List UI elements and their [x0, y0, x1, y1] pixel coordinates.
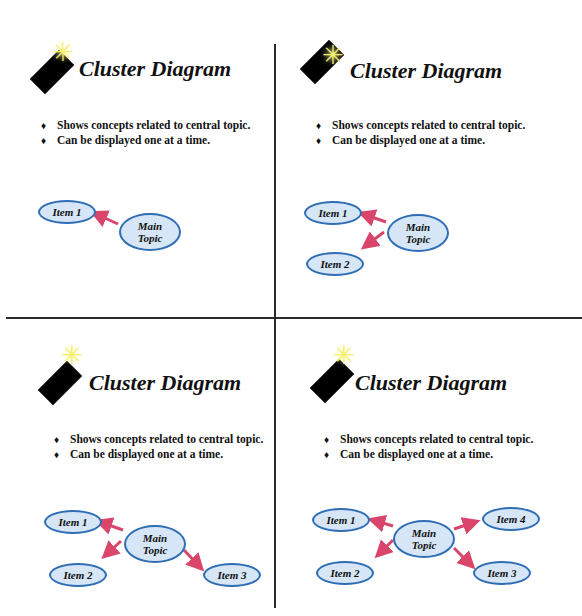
- item-node-1: Item 1: [304, 201, 362, 225]
- main-topic-node: Main Topic: [387, 214, 449, 252]
- item-node-2: Item 2: [316, 561, 374, 585]
- item-node-1: Item 1: [38, 200, 96, 224]
- bullet-item: ♦Can be displayed one at a time.: [324, 447, 533, 462]
- item-node-2: Item 2: [306, 252, 364, 276]
- slide-title: Cluster Diagram: [89, 370, 241, 396]
- bullet-item: ♦Can be displayed one at a time.: [54, 447, 263, 462]
- item-node-1: Item 1: [312, 508, 370, 532]
- bullet-list: ♦Shows concepts related to central topic…: [324, 432, 533, 462]
- bullet-list: ♦Shows concepts related to central topic…: [316, 118, 525, 148]
- bullet-list: ♦Shows concepts related to central topic…: [54, 432, 263, 462]
- main-topic-node: Main Topic: [393, 520, 455, 558]
- item-node-2: Item 2: [49, 563, 107, 587]
- bullet-item: ♦Shows concepts related to central topic…: [54, 432, 263, 447]
- item-node-3: Item 3: [203, 563, 261, 587]
- bullet-item: ♦Shows concepts related to central topic…: [316, 118, 525, 133]
- item-node-1: Item 1: [44, 510, 102, 534]
- bullet-item: ♦Can be displayed one at a time.: [316, 133, 525, 148]
- item-node-3: Item 3: [473, 561, 531, 585]
- slide-title: Cluster Diagram: [355, 370, 507, 396]
- star-burst-icon: ✳: [333, 343, 355, 369]
- main-topic-node: Main Topic: [124, 525, 186, 563]
- main-topic-node: Main Topic: [119, 213, 181, 251]
- star-burst-icon: ✳: [61, 343, 83, 369]
- bullet-item: ♦Shows concepts related to central topic…: [324, 432, 533, 447]
- star-burst-icon: ✳: [322, 43, 344, 69]
- item-node-4: Item 4: [482, 507, 540, 531]
- slide-title: Cluster Diagram: [350, 58, 502, 84]
